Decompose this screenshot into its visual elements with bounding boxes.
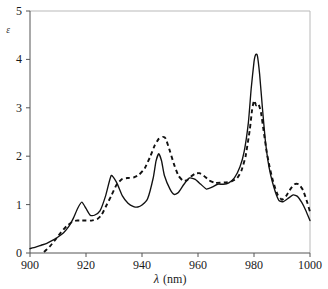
x-tick-label: 980 xyxy=(245,258,263,272)
x-tick-label: 960 xyxy=(189,258,207,272)
chart-figure: 012345 9009209409609801000 ε λ(nm) xyxy=(0,0,328,289)
y-tick-label: 2 xyxy=(16,149,22,163)
y-tick-label: 1 xyxy=(16,198,22,212)
chart-background xyxy=(0,0,328,289)
x-axis-title-unit: (nm) xyxy=(163,272,186,286)
y-tick-label: 4 xyxy=(16,52,22,66)
x-tick-label: 1000 xyxy=(298,258,322,272)
x-tick-label: 920 xyxy=(77,258,95,272)
x-axis-title-symbol: λ xyxy=(153,272,160,286)
x-axis-title: λ(nm) xyxy=(153,272,187,286)
x-tick-label: 940 xyxy=(133,258,151,272)
x-tick-label: 900 xyxy=(21,258,39,272)
y-tick-label: 5 xyxy=(16,4,22,18)
y-tick-label: 3 xyxy=(16,101,22,115)
spectrum-chart: 012345 9009209409609801000 ε λ(nm) xyxy=(0,0,328,289)
y-axis-title: ε xyxy=(6,25,10,35)
